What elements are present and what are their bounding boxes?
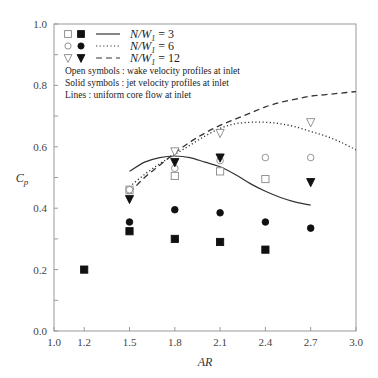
filled-circle-icon (307, 225, 314, 232)
filled-triangle-down-icon (77, 55, 85, 63)
open-circle-icon (65, 43, 71, 49)
filled-square-icon (171, 235, 178, 242)
x-tick-label: 2.4 (259, 336, 273, 348)
filled-triangle-down-icon (171, 159, 179, 167)
open-circle-icon (262, 154, 269, 161)
x-axis: 1.01.21.51.82.12.42.73.0 (47, 327, 363, 348)
y-tick-label: 1.0 (33, 18, 47, 30)
y-tick-label: 0.0 (33, 325, 47, 337)
y-tick-label: 0.6 (33, 141, 47, 153)
open-triangle-down-icon (216, 129, 224, 137)
legend-notes: Open symbols : wake velocity profiles at… (65, 66, 240, 100)
model-curves (130, 92, 357, 206)
x-tick-label: 2.1 (213, 336, 227, 348)
filled-circle-icon (262, 219, 269, 226)
filled-triangle-down-icon (125, 195, 133, 203)
x-tick-label: 1.0 (47, 336, 61, 348)
open-triangle-down-icon (64, 55, 72, 63)
legend-note: Solid symbols : jet velocity profiles at… (65, 78, 229, 88)
filled-circle-icon (78, 43, 84, 49)
legend-note: Lines : uniform core flow at inlet (65, 90, 191, 100)
x-tick-label: 2.7 (304, 336, 318, 348)
dashed-curve (130, 92, 357, 193)
legend-note: Open symbols : wake velocity profiles at… (65, 66, 240, 76)
legend: N/W1 = 3N/W1 = 6N/W1 = 12 (64, 27, 180, 67)
filled-square-icon (78, 31, 85, 38)
x-tick-label: 1.2 (77, 336, 91, 348)
open-square-icon (262, 175, 269, 182)
x-tick-label: 1.8 (168, 336, 182, 348)
open-square-icon (217, 168, 224, 175)
open-triangle-down-icon (171, 148, 179, 156)
y-axis-title: Cp (16, 171, 29, 187)
filled-square-icon (81, 266, 88, 273)
legend-label: N/W1 = 12 (129, 51, 180, 67)
y-tick-label: 0.8 (33, 79, 47, 91)
x-tick-label: 3.0 (349, 336, 363, 348)
open-square-icon (65, 31, 72, 38)
filled-square-icon (262, 246, 269, 253)
filled-square-icon (217, 238, 224, 245)
x-tick-label: 1.5 (123, 336, 137, 348)
x-axis-title: AR (197, 355, 213, 369)
pressure-recovery-chart: 1.01.21.51.82.12.42.73.0 0.00.20.40.60.8… (0, 0, 378, 378)
open-circle-icon (307, 154, 314, 161)
dotted-curve (130, 122, 357, 187)
y-tick-label: 0.2 (33, 264, 47, 276)
data-markers (81, 119, 315, 274)
y-tick-label: 0.4 (33, 202, 47, 214)
open-triangle-down-icon (307, 119, 315, 127)
filled-triangle-down-icon (307, 179, 315, 187)
filled-square-icon (126, 228, 133, 235)
filled-circle-icon (126, 219, 133, 226)
open-square-icon (171, 172, 178, 179)
filled-circle-icon (172, 206, 179, 213)
open-circle-icon (126, 186, 133, 193)
filled-circle-icon (217, 210, 224, 217)
